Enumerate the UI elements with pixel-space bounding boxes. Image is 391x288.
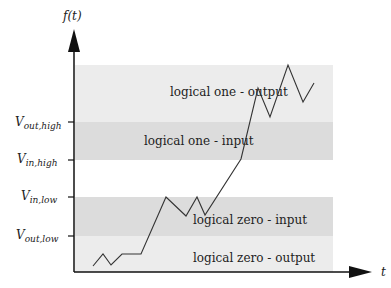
label-logical-zero-input: logical zero - input (193, 213, 307, 227)
logic-levels-diagram: logical one - output logical one - input… (0, 0, 391, 288)
x-axis-arrow-icon (349, 266, 372, 278)
level-label-vout-low: Vout,low (16, 228, 59, 244)
level-label-vin-low: Vin,low (21, 189, 58, 205)
level-label-vout-high: Vout,high (15, 115, 62, 131)
y-axis-arrow-icon (68, 29, 80, 52)
label-logical-one-output: logical one - output (170, 85, 288, 99)
label-logical-zero-output: logical zero - output (193, 251, 315, 265)
level-label-vin-high: Vin,high (17, 152, 57, 168)
y-axis-label: f(t) (62, 9, 82, 23)
label-logical-one-input: logical one - input (144, 134, 254, 148)
x-axis-label: t (381, 265, 386, 279)
